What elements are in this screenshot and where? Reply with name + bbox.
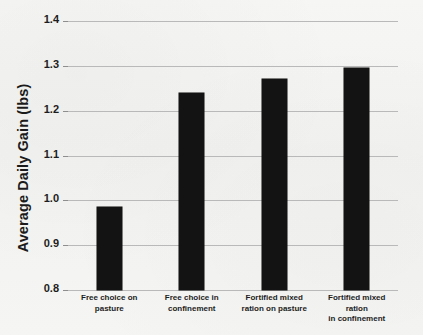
- y-axis-tick-label: 1.1: [44, 148, 59, 160]
- x-axis-label-line2: confinement: [152, 304, 233, 315]
- y-axis-tick-label: 1.3: [44, 58, 59, 70]
- x-axis-label-line1: Free choice in: [152, 293, 233, 304]
- y-axis-title: Average Daily Gain (lbs): [8, 0, 38, 335]
- bar-slot: [233, 21, 316, 290]
- bar-slot: [316, 21, 399, 290]
- y-axis-tick-label: 1.0: [44, 192, 59, 204]
- bar-slot: [68, 21, 151, 290]
- x-axis-label-line2: in confinement: [317, 314, 398, 325]
- y-axis-tick-label: 0.8: [44, 282, 59, 294]
- x-axis-label: Free choice onpasture: [68, 293, 151, 325]
- x-axis-label: Free choice inconfinement: [151, 293, 234, 325]
- bar-chart-figure: Average Daily Gain (lbs) 1.41.31.21.11.0…: [0, 0, 423, 335]
- bar[interactable]: [179, 93, 204, 290]
- bar[interactable]: [97, 207, 122, 290]
- x-axis-label-line1: Free choice on: [69, 293, 150, 304]
- y-axis-tick-mark: [63, 290, 68, 291]
- y-axis-tick-label: 1.4: [44, 13, 59, 25]
- y-axis-tick-label: 0.9: [44, 237, 59, 249]
- bar[interactable]: [262, 79, 287, 290]
- x-axis-label-line1: Fortified mixed: [234, 293, 315, 304]
- y-axis-title-label: Average Daily Gain (lbs): [15, 83, 31, 252]
- bar-slot: [151, 21, 234, 290]
- y-axis-tick-label: 1.2: [44, 103, 59, 115]
- x-axis-label-line1: Fortified mixed ration: [317, 293, 398, 314]
- bars-group: [68, 21, 398, 290]
- gridline-0-8: 0.8: [68, 290, 398, 291]
- bar[interactable]: [344, 68, 369, 290]
- x-axis-label-line2: pasture: [69, 304, 150, 315]
- x-axis-label: Fortified mixedration on pasture: [233, 293, 316, 325]
- x-axis-label: Fortified mixed rationin confinement: [316, 293, 399, 325]
- plot-area: 1.41.31.21.11.00.90.8: [68, 21, 398, 290]
- x-axis-label-line2: ration on pasture: [234, 304, 315, 315]
- x-axis-category-labels: Free choice onpastureFree choice inconfi…: [68, 293, 398, 325]
